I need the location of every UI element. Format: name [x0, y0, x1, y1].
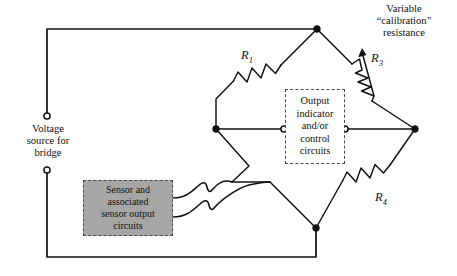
label-resistor-r1: R1 — [241, 48, 253, 65]
label-voltage-source-for-bridge: Voltage source for bridge — [4, 123, 92, 159]
output-indicator-control-circuits-box[interactable]: Output indicator and/or control circuits — [285, 89, 345, 164]
label-r1-subscript: 1 — [249, 55, 253, 65]
label-r1-letter: R — [241, 48, 249, 62]
resistor-r1-zigzag — [234, 64, 282, 82]
wire-top-right-arm-upper — [317, 29, 352, 64]
node-left-bridge — [213, 126, 220, 133]
resistor-r4-zigzag — [343, 165, 391, 183]
variable-resistor-arrow-icon — [358, 48, 366, 57]
label-r4-subscript: 4 — [383, 197, 387, 207]
node-right-bridge — [412, 126, 419, 133]
node-bottom-apex — [313, 225, 320, 232]
wire-top-left-arm-lower — [216, 81, 234, 129]
node-top-apex — [314, 26, 321, 33]
wire-top-right-arm-lower — [372, 101, 415, 129]
sensor-and-associated-output-circuits-box[interactable]: Sensor and associated sensor output circ… — [83, 180, 173, 236]
wheatstone-bridge-diagram: Output indicator and/or control circuits… — [0, 0, 457, 276]
label-r3-subscript: 3 — [379, 58, 383, 68]
wire-bottom-left-arm-lower — [232, 182, 316, 228]
label-resistor-r4: R4 — [375, 190, 387, 207]
label-variable-calibration-resistance: Variable “calibration” resistance — [352, 3, 456, 39]
sensor-lead-lower-flexible-icon — [173, 182, 270, 217]
terminal-voltage-source-bottom[interactable] — [44, 167, 50, 173]
label-r3-letter: R — [371, 51, 379, 65]
label-resistor-r3: R3 — [371, 51, 383, 68]
label-r4-letter: R — [375, 190, 383, 204]
terminal-voltage-source-top[interactable] — [44, 113, 50, 119]
wire-bottom-right-arm-lower — [316, 181, 343, 228]
wire-bottom-right-arm-upper — [390, 129, 415, 165]
wire-top-left-arm-upper — [281, 29, 317, 65]
wire-bottom-left-arm-upper — [216, 129, 249, 182]
sensor-lead-upper-flexible-icon — [173, 181, 232, 198]
